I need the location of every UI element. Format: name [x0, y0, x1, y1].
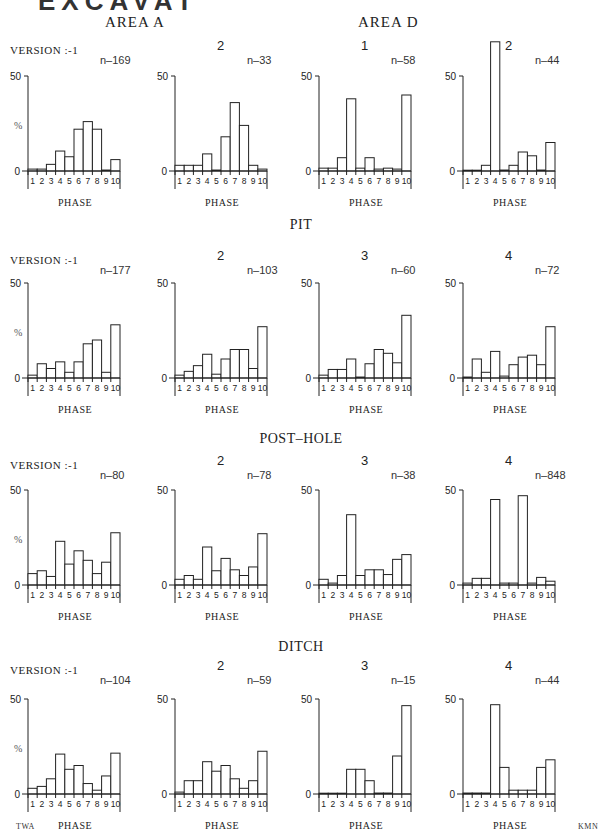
area-a-heading: AREA A [105, 14, 165, 31]
histogram-bar [546, 327, 555, 378]
y-tick-0: 0 [161, 580, 167, 591]
histogram-panel: 4n–7250012345678910PHASE [443, 250, 583, 425]
y-unit-label: % [14, 120, 22, 131]
y-tick-50: 50 [10, 694, 22, 705]
histogram-panel: 4n–84850012345678910PHASE [443, 455, 583, 630]
y-tick-50: 50 [301, 694, 313, 705]
section-heading-pit: PIT [0, 217, 602, 233]
histogram-bar [74, 362, 83, 378]
histogram-bar [111, 753, 120, 794]
histogram-bar [193, 366, 202, 378]
x-tick-label: 2 [186, 590, 191, 600]
x-tick-label: 3 [484, 590, 489, 600]
histogram-panel: VERSION :-1n–104500%12345678910PHASE [8, 660, 148, 834]
x-tick-label: 1 [30, 799, 35, 809]
histogram-plot: 50012345678910 [299, 250, 439, 410]
histogram-bar [92, 129, 101, 171]
histogram-bar [258, 327, 267, 378]
x-tick-label: 10 [402, 383, 412, 393]
x-tick-label: 4 [205, 799, 210, 809]
x-tick-label: 4 [349, 799, 354, 809]
histogram-bar [193, 579, 202, 585]
y-tick-50: 50 [10, 278, 22, 289]
y-tick-0: 0 [14, 373, 20, 384]
histogram-plot: 50012345678910 [443, 250, 583, 410]
x-tick-label: 7 [232, 176, 237, 186]
x-tick-label: 5 [67, 383, 72, 393]
y-tick-50: 50 [301, 71, 313, 82]
x-tick-label: 8 [386, 799, 391, 809]
histogram-bar [74, 129, 83, 171]
histogram-bar [221, 766, 230, 795]
histogram-plot: 50012345678910 [443, 40, 583, 200]
x-tick-label: 3 [196, 590, 201, 600]
credit-right: KMN [578, 822, 598, 831]
histogram-panel: 3n–3850012345678910PHASE [299, 455, 439, 630]
x-tick-label: 2 [474, 383, 479, 393]
histogram-bar [365, 570, 374, 585]
x-tick-label: 7 [520, 590, 525, 600]
histogram-bar [203, 762, 212, 794]
histogram-bar [230, 350, 239, 379]
x-tick-label: 6 [223, 590, 228, 600]
histogram-plot: 50012345678910 [299, 40, 439, 200]
x-tick-label: 7 [85, 383, 90, 393]
x-tick-label: 9 [251, 176, 256, 186]
x-tick-label: 5 [214, 383, 219, 393]
x-tick-label: 5 [358, 383, 363, 393]
histogram-bar [239, 350, 248, 379]
histogram-bar [402, 315, 411, 378]
histogram-bar [230, 103, 239, 171]
histogram-bar [221, 558, 230, 585]
histogram-bar [249, 369, 258, 379]
x-tick-label: 4 [493, 176, 498, 186]
x-axis-label: PHASE [205, 611, 239, 622]
x-tick-label: 2 [330, 383, 335, 393]
x-tick-label: 6 [367, 799, 372, 809]
x-tick-label: 5 [358, 799, 363, 809]
histogram-bar [337, 158, 346, 171]
x-tick-label: 3 [49, 383, 54, 393]
x-tick-label: 6 [76, 383, 81, 393]
y-tick-0: 0 [14, 580, 20, 591]
histogram-bar [249, 781, 258, 794]
histogram-bar [111, 160, 120, 171]
x-tick-label: 3 [49, 590, 54, 600]
x-tick-label: 2 [330, 590, 335, 600]
histogram-bar [356, 576, 365, 586]
histogram-bar [374, 570, 383, 585]
histogram-bar [203, 154, 212, 171]
y-tick-50: 50 [445, 71, 457, 82]
histogram-bar [402, 95, 411, 171]
x-tick-label: 3 [484, 799, 489, 809]
y-tick-0: 0 [449, 373, 455, 384]
histogram-bar [37, 786, 46, 794]
x-tick-label: 6 [367, 590, 372, 600]
x-tick-label: 10 [111, 383, 121, 393]
x-tick-label: 9 [539, 590, 544, 600]
x-tick-label: 3 [49, 799, 54, 809]
histogram-plot: 50012345678910 [299, 660, 439, 820]
x-axis-label: PHASE [58, 611, 92, 622]
histogram-bar [472, 359, 481, 378]
histogram-bar [28, 788, 37, 794]
x-tick-label: 2 [474, 799, 479, 809]
histogram-plot: 50012345678910 [299, 455, 439, 615]
x-tick-label: 7 [232, 799, 237, 809]
histogram-bar [537, 365, 546, 378]
histogram-bar [491, 705, 500, 794]
x-tick-label: 7 [232, 383, 237, 393]
x-tick-label: 7 [376, 590, 381, 600]
histogram-bar [56, 151, 65, 171]
histogram-panel: 2n–5950012345678910PHASE [155, 660, 295, 834]
histogram-bar [37, 364, 46, 378]
x-axis-label: PHASE [493, 820, 527, 831]
x-tick-label: 4 [58, 590, 63, 600]
x-tick-label: 2 [186, 799, 191, 809]
x-axis-label: PHASE [349, 611, 383, 622]
histogram-bar [365, 158, 374, 171]
x-tick-label: 4 [205, 383, 210, 393]
histogram-bar [65, 769, 74, 794]
x-tick-label: 9 [539, 799, 544, 809]
x-tick-label: 10 [111, 176, 121, 186]
